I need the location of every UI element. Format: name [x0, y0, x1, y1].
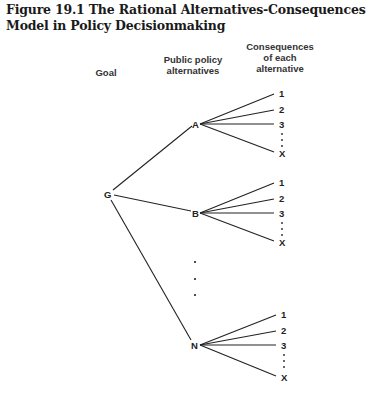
svg-text:A: A: [192, 119, 199, 130]
svg-text:N: N: [191, 340, 198, 351]
svg-text:3: 3: [279, 208, 284, 219]
alternative-n: N 1 2 3 X: [191, 309, 288, 383]
node-goal: G: [104, 189, 111, 200]
svg-text:X: X: [279, 237, 286, 248]
svg-text:2: 2: [281, 325, 286, 336]
svg-text:B: B: [192, 208, 199, 219]
edge-g-n: [111, 200, 191, 340]
edge-g-a: [113, 126, 192, 190]
svg-text:2: 2: [279, 104, 284, 115]
svg-text:X: X: [279, 148, 286, 159]
alternatives-ellipsis: [194, 261, 196, 296]
svg-text:3: 3: [279, 119, 284, 130]
alternative-a: A 1 2 3 X: [192, 88, 286, 159]
svg-text:X: X: [281, 372, 288, 383]
svg-text:3: 3: [281, 340, 286, 351]
svg-text:2: 2: [279, 193, 284, 204]
alternative-b: B 1 2 3 X: [192, 177, 286, 248]
svg-text:1: 1: [281, 309, 287, 320]
svg-text:1: 1: [279, 88, 285, 99]
svg-text:1: 1: [279, 177, 285, 188]
edge-g-b: [114, 195, 191, 211]
decision-tree: G A 1 2 3 X B 1 2 3 X: [0, 0, 378, 398]
